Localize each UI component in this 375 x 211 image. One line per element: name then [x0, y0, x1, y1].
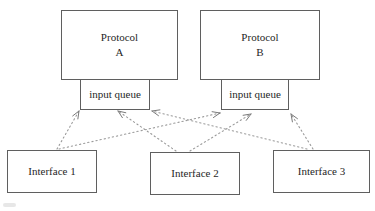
- protocol-b-label: Protocol B: [241, 30, 278, 60]
- interface-2-box: Interface 2: [150, 152, 240, 195]
- arrowhead-interface-1-to-input-queue-b: [212, 112, 220, 113]
- interface-3-label: Interface 3: [298, 164, 345, 179]
- interface-1-box: Interface 1: [7, 150, 97, 193]
- protocol-a-label: Protocol A: [101, 30, 138, 60]
- arrow-interface-2-to-input-queue-a: [118, 111, 176, 151]
- arrow-interface-3-to-input-queue-a: [152, 111, 307, 149]
- interface-2-label: Interface 2: [171, 166, 218, 181]
- input-queue-a-box: input queue: [80, 80, 150, 110]
- interface-3-box: Interface 3: [273, 150, 370, 193]
- input-queue-b-label: input queue: [229, 87, 281, 102]
- input-queue-a-label: input queue: [89, 87, 141, 102]
- protocol-a-label-line2: A: [101, 45, 138, 60]
- protocol-a-box: Protocol A: [61, 10, 178, 80]
- arrow-interface-3-to-input-queue-b: [291, 114, 313, 149]
- protocol-b-label-line2: B: [241, 45, 278, 60]
- protocol-interface-diagram: Protocol A Protocol B input queue input …: [0, 0, 375, 211]
- protocol-b-box: Protocol B: [200, 10, 320, 80]
- arrow-interface-1-to-input-queue-b: [59, 113, 220, 149]
- protocol-b-label-line1: Protocol: [241, 30, 278, 45]
- arrowhead-interface-3-to-input-queue-a: [152, 110, 160, 111]
- arrowhead-interface-1-to-input-queue-b: [213, 113, 220, 118]
- input-queue-b-box: input queue: [221, 80, 289, 110]
- arrow-interface-1-to-input-queue-a: [57, 111, 79, 149]
- protocol-a-label-line1: Protocol: [101, 30, 138, 45]
- interface-1-label: Interface 1: [28, 164, 75, 179]
